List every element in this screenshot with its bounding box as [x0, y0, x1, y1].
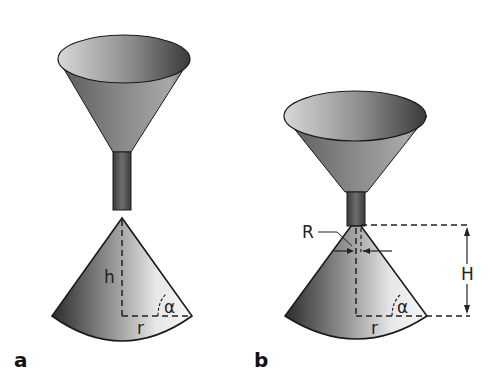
outlet-radius-label: R — [302, 222, 314, 242]
panel-label-b: b — [254, 348, 268, 372]
arrow-down-icon — [464, 305, 470, 314]
angle-label-b: α — [397, 297, 408, 317]
height-label-a: h — [104, 267, 115, 287]
radius-label-a: r — [137, 318, 144, 338]
funnel-cone-diagram: h r α a R — [0, 0, 493, 385]
panel-a: h r α a — [14, 35, 192, 372]
panel-b: R H α r b — [254, 91, 474, 372]
angle-label-a: α — [164, 297, 175, 317]
cone-b: R H α r — [285, 222, 474, 339]
arrow-up-icon — [464, 227, 470, 236]
height-label-b: H — [461, 264, 474, 284]
cone-a: h r α — [52, 218, 192, 341]
funnel-b — [284, 91, 427, 226]
radius-label-b: r — [371, 318, 378, 338]
panel-label-a: a — [14, 348, 28, 372]
funnel-a — [58, 35, 190, 210]
